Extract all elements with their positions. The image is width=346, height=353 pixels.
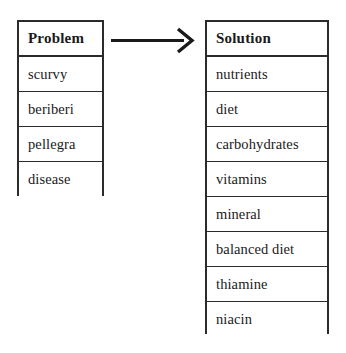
solution-item-label: vitamins (216, 172, 267, 187)
solution-item-label: nutrients (216, 67, 268, 82)
table-row: beriberi (19, 92, 102, 127)
table-row: carbohydrates (207, 127, 327, 162)
table-row: vitamins (207, 162, 327, 197)
solution-item-label: balanced diet (216, 242, 294, 257)
table-row: diet (207, 92, 327, 127)
table-row: pellegra (19, 127, 102, 162)
solution-table-header-row: Solution (207, 22, 327, 57)
table-row: disease (19, 162, 102, 196)
problem-item-label: pellegra (28, 137, 76, 152)
table-row: nutrients (207, 57, 327, 92)
arrow-right-icon (108, 26, 198, 56)
solution-table: Solution nutrients diet carbohydrates vi… (205, 20, 329, 334)
table-row: mineral (207, 197, 327, 232)
solution-item-label: niacin (216, 312, 252, 327)
problem-item-label: disease (28, 172, 71, 187)
maps-to-arrow (108, 26, 198, 56)
problem-table-header-row: Problem (19, 22, 102, 57)
problem-item-label: scurvy (28, 67, 67, 82)
solution-item-label: thiamine (216, 277, 268, 292)
table-row: scurvy (19, 57, 102, 92)
problem-table-header-label: Problem (28, 31, 84, 46)
table-row: balanced diet (207, 232, 327, 267)
table-row: niacin (207, 302, 327, 336)
problem-table: Problem scurvy beriberi pellegra disease (17, 20, 104, 196)
problem-solution-diagram: Problem scurvy beriberi pellegra disease… (0, 0, 346, 353)
solution-item-label: diet (216, 102, 238, 117)
solution-table-header-label: Solution (216, 31, 271, 46)
table-row: thiamine (207, 267, 327, 302)
solution-item-label: carbohydrates (216, 137, 299, 152)
solution-item-label: mineral (216, 207, 261, 222)
problem-item-label: beriberi (28, 102, 74, 117)
